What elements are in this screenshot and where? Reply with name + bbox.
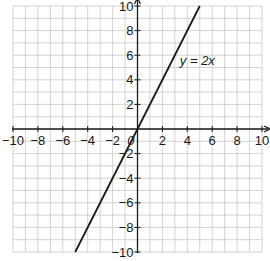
y-tick-label: −10: [111, 245, 133, 260]
x-tick-label: 6: [209, 133, 216, 148]
tick-labels: −10−8−6−4−2246810−10−8−6−4−22468100: [2, 0, 269, 260]
coordinate-plane: −10−8−6−4−2246810−10−8−6−4−22468100 y = …: [0, 0, 270, 261]
annotations: y = 2x: [179, 53, 216, 68]
x-tick-label: −10: [2, 133, 24, 148]
y-tick-label: −4: [119, 171, 134, 186]
x-tick-label: 2: [159, 133, 166, 148]
y-tick-label: 2: [126, 97, 133, 112]
x-tick-label: −8: [30, 133, 45, 148]
y-tick-label: 6: [126, 48, 133, 63]
x-tick-label: 8: [233, 133, 240, 148]
y-tick-label: −8: [119, 220, 134, 235]
x-tick-label: 4: [184, 133, 191, 148]
y-tick-label: 4: [126, 72, 133, 87]
x-tick-label: −4: [80, 133, 95, 148]
x-tick-label: −6: [55, 133, 70, 148]
y-tick-label: 10: [119, 0, 133, 14]
y-tick-label: 8: [126, 23, 133, 38]
y-tick-label: −2: [119, 146, 134, 161]
y-tick-label: −6: [119, 195, 134, 210]
x-tick-label: 10: [255, 133, 269, 148]
equation-label: y = 2x: [179, 53, 216, 68]
